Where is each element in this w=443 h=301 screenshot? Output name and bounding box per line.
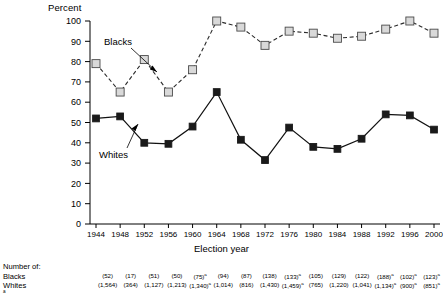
counts-whites-cell: (1,459)a	[281, 281, 304, 289]
x-tick-label: 1964	[208, 230, 226, 239]
counts-whites-cell: (1,127)	[142, 281, 165, 289]
footnote-marker: a	[437, 281, 439, 286]
data-point-whites[interactable]	[237, 136, 244, 143]
x-tick-label: 1984	[329, 230, 347, 239]
series-annotation-whites: Whites	[99, 149, 128, 160]
y-tick-label: 60	[71, 97, 81, 107]
data-point-blacks[interactable]	[382, 25, 390, 33]
x-tick-label: 1976	[280, 230, 298, 239]
data-point-whites[interactable]	[141, 139, 148, 146]
data-point-whites[interactable]	[334, 145, 341, 152]
counts-blacks-cell: (105)	[304, 272, 327, 280]
counts-whites-cell: (765)	[304, 281, 327, 289]
counts-blacks-cell: (102)a	[397, 272, 420, 280]
x-tick-label: 1972	[256, 230, 274, 239]
footnote-marker: a	[414, 281, 416, 286]
data-point-blacks[interactable]	[430, 29, 438, 37]
counts-whites-cell: (1,564)	[96, 281, 119, 289]
data-point-whites[interactable]	[310, 143, 317, 150]
data-point-blacks[interactable]	[285, 27, 293, 35]
counts-blacks-cell: (122)	[351, 272, 374, 280]
counts-whites-cell: (816)	[235, 281, 258, 289]
data-point-whites[interactable]	[286, 124, 293, 131]
data-point-whites[interactable]	[93, 115, 100, 122]
counts-row-label-whites: Whites	[3, 281, 26, 290]
data-point-blacks[interactable]	[213, 17, 221, 25]
data-point-whites[interactable]	[382, 111, 389, 118]
data-point-whites[interactable]	[213, 89, 220, 96]
x-tick-label: 1956	[160, 230, 178, 239]
data-point-blacks[interactable]	[261, 41, 269, 49]
counts-whites-cell: (1,340)a	[189, 281, 212, 289]
footnote-marker: a	[394, 281, 396, 286]
data-point-blacks[interactable]	[92, 60, 100, 68]
series-line-whites	[96, 92, 434, 160]
counts-whites-cell: (1,014)	[212, 281, 235, 289]
footnote-marker: a	[414, 272, 416, 277]
counts-blacks-cell: (87)	[235, 272, 258, 280]
data-point-blacks[interactable]	[333, 34, 341, 42]
counts-blacks-cell: (129)	[327, 272, 350, 280]
y-tick-label: 30	[71, 158, 81, 168]
data-point-blacks[interactable]	[116, 88, 124, 96]
data-point-blacks[interactable]	[189, 66, 197, 74]
data-point-whites[interactable]	[165, 140, 172, 147]
footnote-superscript: a	[3, 289, 6, 294]
data-point-whites[interactable]	[406, 112, 413, 119]
counts-whites-cell: (1,220)	[327, 281, 350, 289]
counts-blacks-cell: (52)	[96, 272, 119, 280]
counts-blacks-cell: (75)a	[189, 272, 212, 280]
y-tick-label: 50	[71, 118, 81, 128]
footnote-marker: a	[204, 272, 206, 277]
data-point-whites[interactable]	[189, 123, 196, 130]
footnote-marker: a	[437, 272, 439, 277]
counts-blacks-cell: (188)a	[374, 272, 397, 280]
x-tick-label: 1944	[87, 230, 105, 239]
data-point-whites[interactable]	[358, 135, 365, 142]
counts-blacks-cell: (17)	[119, 272, 142, 280]
data-point-blacks[interactable]	[164, 88, 172, 96]
x-tick-label: 1996	[401, 230, 419, 239]
counts-row-label-blacks: Blacks	[3, 272, 25, 281]
line-chart: 1009080706050403020100194419481952195619…	[0, 0, 443, 240]
y-tick-label: 10	[71, 199, 81, 209]
data-point-whites[interactable]	[262, 157, 269, 164]
figure-root: Percent 10090807060504030201001944194819…	[0, 0, 443, 301]
counts-blacks-cell: (123)a	[420, 272, 443, 280]
y-tick-label: 100	[66, 16, 81, 26]
data-point-whites[interactable]	[431, 126, 438, 133]
counts-blacks-cell: (94)	[212, 272, 235, 280]
counts-whites-cell: (1,430)	[258, 281, 281, 289]
x-tick-label: 1968	[232, 230, 250, 239]
counts-heading: Number of:	[3, 262, 41, 271]
x-tick-label: 2000	[425, 230, 443, 239]
counts-blacks-cell: (133)a	[281, 272, 304, 280]
counts-whites-cell: (364)	[119, 281, 142, 289]
x-axis-title: Election year	[0, 243, 443, 254]
x-tick-label: 1992	[377, 230, 395, 239]
data-point-blacks[interactable]	[237, 23, 245, 31]
footnote-marker: a	[391, 272, 393, 277]
y-tick-label: 80	[71, 57, 81, 67]
counts-row-blacks: (52)(17)(51)(50)(75)a(94)(87)(138)(133)a…	[96, 272, 443, 280]
footnote-marker: a	[299, 272, 301, 277]
plot-area: 1009080706050403020100194419481952195619…	[0, 0, 443, 240]
counts-blacks-cell: (138)	[258, 272, 281, 280]
y-tick-label: 90	[71, 37, 81, 47]
x-tick-label: 1960	[184, 230, 202, 239]
data-point-blacks[interactable]	[406, 17, 414, 25]
footnote: a	[3, 289, 6, 297]
data-point-blacks[interactable]	[358, 32, 366, 40]
x-tick-label: 1948	[111, 230, 129, 239]
counts-whites-cell: (1,213)	[165, 281, 188, 289]
counts-row-whites: (1,564)(364)(1,127)(1,213)(1,340)a(1,014…	[96, 281, 443, 289]
footnote-marker: a	[301, 281, 303, 286]
counts-blacks-cell: (51)	[142, 272, 165, 280]
data-point-blacks[interactable]	[309, 29, 317, 37]
y-tick-label: 0	[76, 219, 81, 229]
counts-whites-cell: (900)a	[397, 281, 420, 289]
y-tick-label: 20	[71, 179, 81, 189]
data-point-whites[interactable]	[117, 113, 124, 120]
footnote-marker: a	[209, 281, 211, 286]
counts-whites-cell: (1,134)a	[374, 281, 397, 289]
